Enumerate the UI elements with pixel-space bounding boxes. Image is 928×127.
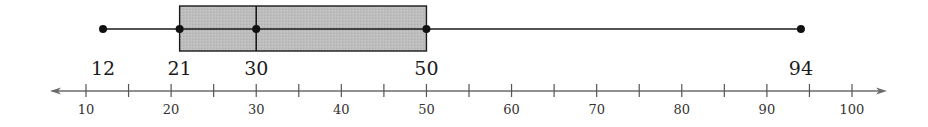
max-label: 94 bbox=[789, 57, 813, 79]
min-point bbox=[99, 25, 107, 33]
max-point bbox=[797, 25, 805, 33]
q1-point bbox=[176, 25, 184, 33]
number-line-axis bbox=[50, 84, 887, 97]
median-label: 30 bbox=[244, 57, 268, 79]
axis-tick-labels: 102030405060708090100 bbox=[78, 102, 865, 117]
tick-label: 50 bbox=[418, 102, 435, 117]
q3-point bbox=[422, 25, 430, 33]
q3-label: 50 bbox=[414, 57, 438, 79]
tick-label: 30 bbox=[248, 102, 265, 117]
tick-label: 10 bbox=[78, 102, 95, 117]
tick-label: 60 bbox=[503, 102, 520, 117]
tick-label: 40 bbox=[333, 102, 350, 117]
tick-label: 70 bbox=[588, 102, 605, 117]
tick-label: 20 bbox=[163, 102, 180, 117]
five-number-labels: 1221305094 bbox=[91, 57, 813, 79]
q1-label: 21 bbox=[168, 57, 192, 79]
tick-label: 80 bbox=[674, 102, 691, 117]
median-point bbox=[252, 25, 260, 33]
tick-label: 90 bbox=[759, 102, 776, 117]
min-label: 12 bbox=[91, 57, 115, 79]
tick-label: 100 bbox=[840, 102, 865, 117]
box-plot-chart: 1221305094 102030405060708090100 bbox=[0, 0, 928, 127]
